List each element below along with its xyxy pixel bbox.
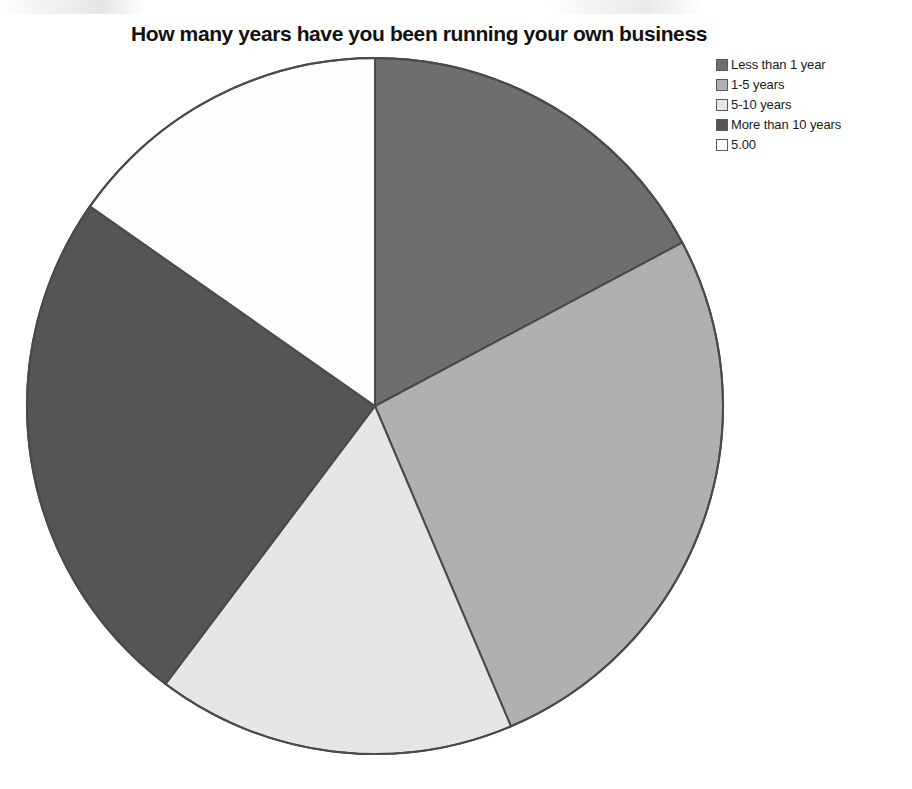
chart-legend: Less than 1 year 1-5 years 5-10 years Mo… <box>716 55 906 155</box>
legend-swatch-icon <box>716 139 728 151</box>
legend-swatch-icon <box>716 119 728 131</box>
legend-item-5-00[interactable]: 5.00 <box>716 135 906 155</box>
legend-label: Less than 1 year <box>731 55 826 75</box>
legend-swatch-icon <box>716 79 728 91</box>
legend-swatch-icon <box>716 99 728 111</box>
legend-item-1-5-years[interactable]: 1-5 years <box>716 75 906 95</box>
legend-label: 5.00 <box>731 135 756 155</box>
legend-item-less-than-1-year[interactable]: Less than 1 year <box>716 55 906 75</box>
legend-item-5-10-years[interactable]: 5-10 years <box>716 95 906 115</box>
legend-label: 1-5 years <box>731 75 784 95</box>
legend-swatch-icon <box>716 59 728 71</box>
legend-label: 5-10 years <box>731 95 791 115</box>
legend-label: More than 10 years <box>731 115 841 135</box>
pie-chart-figure: How many years have you been running you… <box>0 0 912 789</box>
legend-item-more-than-10-years[interactable]: More than 10 years <box>716 115 906 135</box>
